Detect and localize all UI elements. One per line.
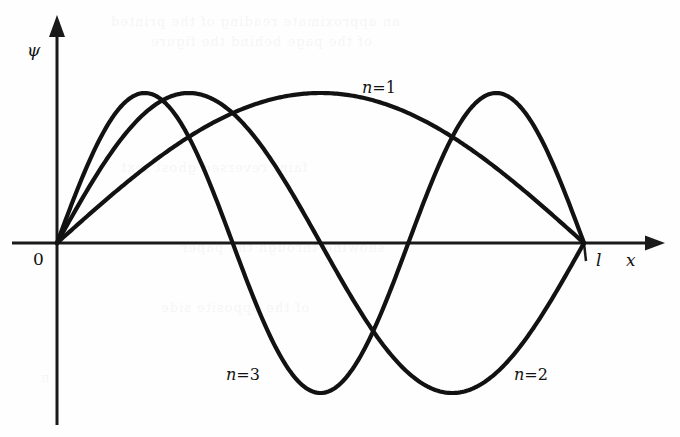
curve-label-n1-value: 1 xyxy=(386,78,396,97)
x-axis-label: x xyxy=(626,252,636,269)
curve-label-n3-equals: = xyxy=(236,365,249,384)
x-axis-arrowhead xyxy=(645,236,665,251)
wavefunction-plot xyxy=(0,0,680,437)
curve-label-n2-equals: = xyxy=(524,365,537,384)
curve-label-n3: n=3 xyxy=(226,367,260,383)
wavefunction-figure: an approximate reading of the printedof … xyxy=(0,0,680,437)
axes-group xyxy=(12,15,665,425)
curve-label-n2-symbol: n xyxy=(514,365,524,384)
curve-label-n3-value: 3 xyxy=(250,365,260,384)
origin-label: 0 xyxy=(33,251,44,268)
y-axis-arrowhead xyxy=(49,15,65,37)
curve-label-n3-symbol: n xyxy=(226,365,236,384)
box-length-label: l xyxy=(596,252,601,269)
wavefunction-curve-n1 xyxy=(57,93,584,243)
curve-label-n1-equals: = xyxy=(372,78,385,97)
curve-label-n2: n=2 xyxy=(514,367,548,383)
curve-label-n2-value: 2 xyxy=(538,365,548,384)
y-axis-label: ψ xyxy=(27,42,40,59)
curve-label-n1-symbol: n xyxy=(362,78,372,97)
curve-label-n1: n=1 xyxy=(362,80,396,96)
